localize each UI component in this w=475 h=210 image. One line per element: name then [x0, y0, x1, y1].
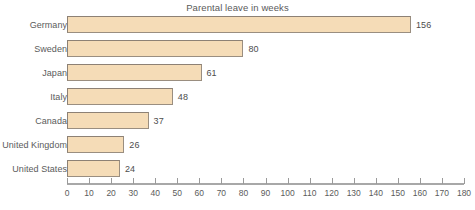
x-axis-tick-label: 0 — [65, 188, 70, 198]
bar-row: Canada37 — [0, 112, 475, 129]
bar-row: United Kingdom26 — [0, 136, 475, 153]
x-axis-tick — [376, 178, 377, 184]
x-axis-tick — [420, 178, 421, 184]
chart-title: Parental leave in weeks — [0, 2, 475, 13]
bar-chart: Parental leave in weeks Germany156Sweden… — [0, 0, 475, 210]
plot-area: Germany156Sweden80Japan61Italy48Canada37… — [0, 15, 475, 183]
x-axis-tick-label: 120 — [325, 188, 339, 198]
category-label: Japan — [42, 68, 67, 78]
x-axis-tick-label: 140 — [369, 188, 383, 198]
bar-value-label: 61 — [207, 68, 217, 78]
bar-row: Sweden80 — [0, 40, 475, 57]
x-axis-tick — [332, 178, 333, 184]
x-axis-tick-label: 70 — [217, 188, 226, 198]
x-axis-tick — [288, 178, 289, 184]
x-axis-tick — [310, 178, 311, 184]
x-axis-tick — [398, 178, 399, 184]
x-axis-tick-label: 130 — [347, 188, 361, 198]
bar-row: United States24 — [0, 160, 475, 177]
bar — [67, 88, 173, 105]
bar-row: Italy48 — [0, 88, 475, 105]
x-axis-tick-label: 180 — [457, 188, 471, 198]
x-axis-tick — [354, 178, 355, 184]
bar — [67, 16, 411, 33]
x-axis-tick-label: 20 — [106, 188, 115, 198]
x-axis-tick-label: 50 — [173, 188, 182, 198]
bar — [67, 64, 202, 81]
x-axis-tick — [442, 178, 443, 184]
bar-row: Japan61 — [0, 64, 475, 81]
x-axis-tick — [199, 178, 200, 184]
x-axis-tick — [464, 178, 465, 184]
category-label: Sweden — [34, 44, 67, 54]
x-axis-tick-label: 150 — [391, 188, 405, 198]
x-axis-tick-label: 40 — [150, 188, 159, 198]
x-axis-tick-label: 60 — [195, 188, 204, 198]
bar-value-label: 48 — [178, 92, 188, 102]
category-label: United Kingdom — [2, 140, 67, 150]
x-axis-tick-label: 110 — [303, 188, 317, 198]
x-axis-tick-label: 80 — [239, 188, 248, 198]
x-axis-tick — [111, 178, 112, 184]
bar-value-label: 24 — [125, 164, 135, 174]
x-axis-tick-label: 90 — [261, 188, 270, 198]
bar-value-label: 80 — [248, 44, 258, 54]
bar — [67, 136, 124, 153]
category-label: Germany — [30, 20, 67, 30]
category-label: Italy — [50, 92, 67, 102]
x-axis-tick — [221, 178, 222, 184]
x-axis-tick — [67, 178, 68, 184]
x-axis-tick-label: 160 — [413, 188, 427, 198]
x-axis-tick-label: 100 — [280, 188, 294, 198]
category-label: Canada — [35, 116, 67, 126]
x-axis-tick — [155, 178, 156, 184]
bar — [67, 160, 120, 177]
x-axis-tick — [177, 178, 178, 184]
x-axis-tick-label: 10 — [84, 188, 93, 198]
x-axis-tick — [133, 178, 134, 184]
x-axis-tick — [243, 178, 244, 184]
bar-value-label: 156 — [416, 20, 431, 30]
bar-value-label: 26 — [129, 140, 139, 150]
bar-value-label: 37 — [154, 116, 164, 126]
x-axis-tick-label: 30 — [128, 188, 137, 198]
category-label: United States — [12, 164, 67, 174]
bar — [67, 112, 149, 129]
x-axis-tick — [266, 178, 267, 184]
x-axis-tick-label: 170 — [435, 188, 449, 198]
x-axis-tick — [89, 178, 90, 184]
bar — [67, 40, 243, 57]
x-axis: 0102030405060708090100110120130140150160… — [0, 183, 475, 210]
bar-row: Germany156 — [0, 16, 475, 33]
